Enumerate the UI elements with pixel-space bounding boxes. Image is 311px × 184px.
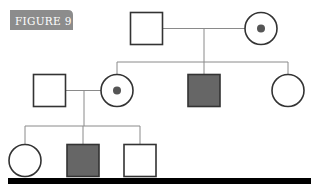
pedigree-individuals xyxy=(9,13,304,177)
male-square xyxy=(131,13,163,45)
bottom-bar xyxy=(8,178,311,184)
individual-ii-2 xyxy=(101,75,133,107)
female-circle xyxy=(9,145,41,177)
affected-male-square xyxy=(67,145,99,177)
individual-ii-1 xyxy=(34,75,66,107)
female-circle xyxy=(272,75,304,107)
individual-i-1 xyxy=(131,13,163,45)
individual-iii-1 xyxy=(9,145,41,177)
carrier-dot xyxy=(257,25,265,33)
individual-i-2 xyxy=(245,13,277,45)
male-square xyxy=(34,75,66,107)
carrier-dot xyxy=(113,87,121,95)
individual-iii-3 xyxy=(124,145,156,177)
pedigree-figure: FIGURE 9 xyxy=(0,0,311,184)
affected-male-square xyxy=(188,75,220,107)
male-square xyxy=(124,145,156,177)
individual-iii-2 xyxy=(67,145,99,177)
individual-ii-3 xyxy=(188,75,220,107)
individual-ii-4 xyxy=(272,75,304,107)
figure-label: FIGURE 9 xyxy=(10,10,73,30)
figure-label-text: FIGURE 9 xyxy=(15,15,72,27)
